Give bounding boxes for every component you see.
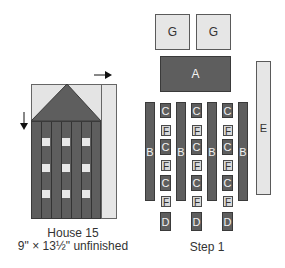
piece-b: B — [176, 102, 186, 201]
piece-b: B — [207, 102, 217, 201]
house-roof — [31, 84, 101, 122]
house-window — [82, 138, 90, 146]
piece-f: F — [161, 196, 171, 207]
right-arrow-icon — [93, 70, 113, 80]
house-body — [31, 121, 101, 219]
piece-c: C — [191, 103, 202, 118]
piece-c: C — [191, 175, 202, 191]
piece-c: C — [160, 103, 171, 118]
piece-c: C — [191, 139, 202, 155]
piece-c: C — [160, 139, 171, 155]
house-window — [42, 190, 50, 198]
piece-g-left: G — [155, 14, 190, 50]
house-window — [62, 190, 70, 198]
house-window — [82, 164, 90, 172]
piece-g-right: G — [196, 14, 231, 50]
piece-f: F — [192, 125, 202, 136]
house-side-strip — [101, 84, 117, 219]
house-window — [42, 164, 50, 172]
piece-f: F — [192, 196, 202, 207]
piece-b: B — [238, 102, 248, 201]
piece-d: D — [222, 212, 233, 231]
house-dimensions: 9" × 13½" unfinished — [8, 240, 138, 253]
piece-a: A — [160, 56, 231, 92]
house-window — [62, 164, 70, 172]
house-window — [42, 138, 50, 146]
piece-f: F — [223, 160, 233, 171]
piece-f: F — [223, 125, 233, 136]
piece-f: F — [192, 160, 202, 171]
piece-f: F — [161, 160, 171, 171]
piece-c: C — [222, 139, 233, 155]
piece-d: D — [191, 212, 202, 231]
down-arrow-icon — [19, 111, 29, 131]
piece-f: F — [223, 196, 233, 207]
piece-d: D — [160, 212, 171, 231]
piece-f: F — [161, 125, 171, 136]
piece-b: B — [145, 102, 155, 201]
house-window — [62, 138, 70, 146]
piece-e: E — [256, 61, 271, 195]
piece-c: C — [222, 103, 233, 118]
piece-c: C — [222, 175, 233, 191]
piece-c: C — [160, 175, 171, 191]
house-window — [82, 190, 90, 198]
step-title: Step 1 — [167, 241, 247, 254]
